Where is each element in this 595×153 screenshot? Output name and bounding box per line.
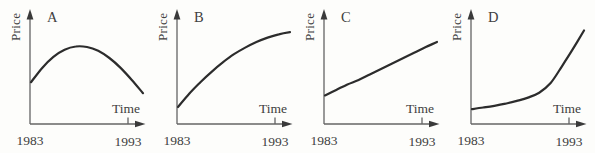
x-axis xyxy=(471,118,587,128)
x-tick-label-end: 1993 xyxy=(556,134,583,149)
chart-panel-d: Price D Time 1983 1993 xyxy=(441,0,588,153)
x-axis-arrowhead-icon xyxy=(282,121,293,128)
x-axis xyxy=(324,118,440,128)
panel-letter: A xyxy=(47,9,58,25)
price-curve-a xyxy=(31,46,143,93)
x-axis-label: Time xyxy=(553,101,581,116)
x-tick-label-start: 1983 xyxy=(164,133,191,148)
x-tick-label-start: 1983 xyxy=(17,133,44,148)
y-axis-arrowhead-icon xyxy=(321,9,328,20)
chart-panel-a: Price A Time 1983 1993 xyxy=(0,0,147,153)
x-axis-arrowhead-icon xyxy=(429,121,440,128)
price-curve-b xyxy=(178,32,290,107)
x-axis-arrowhead-icon xyxy=(576,121,587,128)
y-axis-arrowhead-icon xyxy=(174,9,181,20)
y-axis-arrowhead-icon xyxy=(27,9,34,20)
x-tick-label-start: 1983 xyxy=(458,133,485,148)
x-tick-label-end: 1993 xyxy=(262,134,289,149)
x-axis xyxy=(177,118,293,128)
chart-a-canvas: Price A Time 1983 1993 xyxy=(0,0,147,153)
panel-letter: D xyxy=(488,9,498,25)
x-tick-label-end: 1993 xyxy=(115,134,142,149)
x-tick-label-end: 1993 xyxy=(409,134,436,149)
chart-d-canvas: Price D Time 1983 1993 xyxy=(441,0,588,153)
y-axis xyxy=(321,9,328,124)
y-axis xyxy=(27,9,34,124)
chart-panel-c: Price C Time 1983 1993 xyxy=(294,0,441,153)
y-axis-label: Price xyxy=(449,13,464,41)
x-axis xyxy=(30,118,146,128)
y-axis-label: Price xyxy=(8,13,23,41)
x-tick-label-start: 1983 xyxy=(311,133,338,148)
y-axis-label: Price xyxy=(302,13,317,41)
price-time-graphs-figure: Price A Time 1983 1993 Price B Time 1983… xyxy=(0,0,595,153)
price-curve-d xyxy=(472,31,584,110)
chart-panel-b: Price B Time 1983 1993 xyxy=(147,0,294,153)
y-axis xyxy=(468,9,475,124)
x-axis-label: Time xyxy=(259,101,287,116)
panel-letter: C xyxy=(341,9,351,25)
price-curve-c xyxy=(325,42,437,95)
y-axis-arrowhead-icon xyxy=(468,9,475,20)
x-axis-label: Time xyxy=(406,101,434,116)
y-axis-label: Price xyxy=(155,13,170,41)
panel-letter: B xyxy=(194,9,204,25)
x-axis-label: Time xyxy=(112,101,140,116)
x-axis-arrowhead-icon xyxy=(135,121,146,128)
chart-c-canvas: Price C Time 1983 1993 xyxy=(294,0,441,153)
chart-b-canvas: Price B Time 1983 1993 xyxy=(147,0,294,153)
